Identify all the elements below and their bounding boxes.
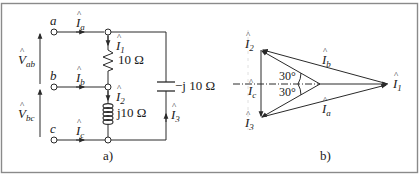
phasor-i2-hat: ^ xyxy=(246,30,251,40)
panel-a-caption: a) xyxy=(103,148,113,163)
resistor xyxy=(103,50,113,71)
phasor-ic-hat: ^ xyxy=(249,77,254,87)
figure: a b c Ia ^ Ib ^ Ic ^ Vab ^ Vbc ^ I1 ^ 10… xyxy=(0,0,420,176)
capacitor-value: −j 10 Ω xyxy=(175,78,215,93)
phasor-ib-hat: ^ xyxy=(323,46,328,56)
inductor-value: j10 Ω xyxy=(116,105,147,120)
terminal-c xyxy=(51,137,57,143)
phasor-i1-hat: ^ xyxy=(394,70,399,80)
node-mid xyxy=(105,84,111,90)
terminal-a xyxy=(51,29,57,35)
terminal-b xyxy=(51,84,57,90)
node-top xyxy=(105,29,111,35)
panel-b-labels: I2 ^ I3 ^ I1 ^ Ib ^ Ia ^ Ic ^ 30° 30° b) xyxy=(244,30,402,163)
angle-arc-lower xyxy=(298,84,301,95)
i1-hat: ^ xyxy=(117,32,122,42)
phasor-i3-hat: ^ xyxy=(246,109,251,119)
angle-upper-label: 30° xyxy=(279,69,296,83)
resistor-value: 10 Ω xyxy=(118,52,144,67)
inductor xyxy=(103,104,113,125)
panel-b-phasors xyxy=(233,50,388,117)
angle-lower-label: 30° xyxy=(279,85,296,99)
terminal-c-label: c xyxy=(50,121,56,136)
ic-hat: ^ xyxy=(77,117,82,127)
i2-hat: ^ xyxy=(117,83,122,93)
panel-a-circuit xyxy=(40,29,175,143)
node-bottom xyxy=(105,137,111,143)
ib-hat: ^ xyxy=(77,64,82,74)
terminal-b-label: b xyxy=(50,68,57,83)
panel-b-caption: b) xyxy=(320,148,331,163)
i3-hat: ^ xyxy=(172,101,177,111)
angle-arc-upper xyxy=(298,73,301,84)
terminal-a-label: a xyxy=(50,13,57,28)
ia-hat: ^ xyxy=(77,9,82,19)
